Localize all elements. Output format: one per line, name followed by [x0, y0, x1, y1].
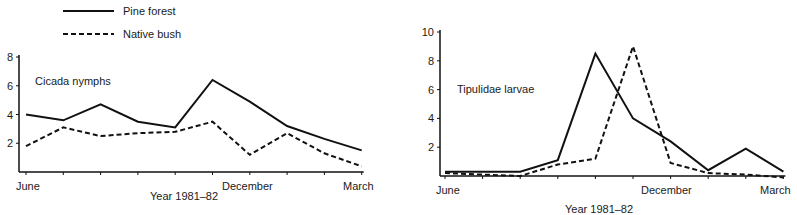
- series-pine-forest: [26, 80, 362, 150]
- x-axis-label: Year 1981–82: [150, 190, 218, 202]
- y-tick-label: 8: [7, 51, 13, 63]
- legend-label-native: Native bush: [123, 28, 181, 40]
- y-tick-label: 4: [428, 112, 434, 124]
- y-tick-label: 4: [7, 109, 13, 121]
- y-tick-label: 6: [428, 84, 434, 96]
- x-tick-label-march: March: [343, 180, 374, 192]
- x-tick-label-december: December: [222, 180, 273, 192]
- x-tick-label-march: March: [760, 184, 791, 196]
- series-native-bush: [445, 46, 783, 177]
- x-tick-label-june: June: [16, 180, 40, 192]
- y-tick-label: 8: [428, 55, 434, 67]
- series-native-bush: [26, 122, 362, 167]
- series-pine-forest: [445, 54, 783, 172]
- chart-cicada: 2468JuneDecemberMarchYear 1981–82Cicada …: [7, 51, 374, 202]
- y-tick-label: 2: [7, 137, 13, 149]
- x-tick-label-december: December: [641, 184, 692, 196]
- figure: Pine forest Native bush 2468JuneDecember…: [0, 0, 797, 215]
- x-tick-label-june: June: [436, 184, 460, 196]
- y-tick-label: 6: [7, 80, 13, 92]
- chart-tipulidae: 246810JuneDecemberMarchYear 1981–82Tipul…: [422, 26, 791, 215]
- x-axis-label: Year 1981–82: [565, 203, 633, 215]
- y-tick-label: 2: [428, 141, 434, 153]
- legend: Pine forest Native bush: [63, 5, 181, 40]
- y-tick-label: 10: [422, 26, 434, 38]
- chart-title: Tipulidae larvae: [457, 83, 534, 95]
- chart-title: Cicada nymphs: [35, 75, 111, 87]
- legend-label-pine: Pine forest: [123, 5, 176, 17]
